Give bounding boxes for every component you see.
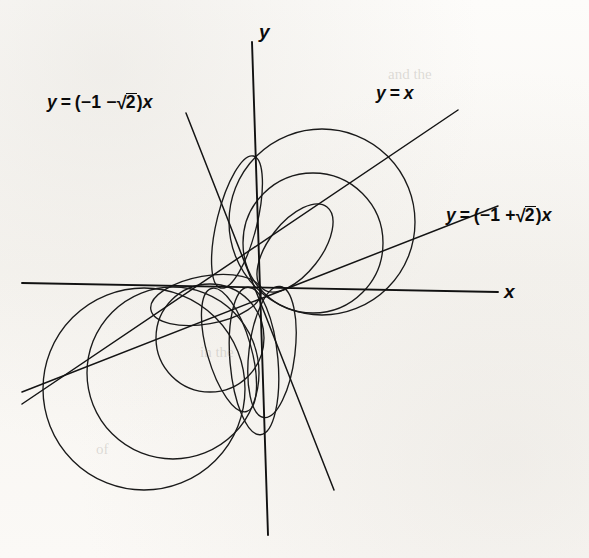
label-line-y-equals-x: y = x (376, 85, 414, 103)
figure-root: and the in the of y x y = (−1 −√2)x y = … (0, 0, 589, 558)
circle-lower-mid (87, 287, 259, 459)
reference-line-1 (22, 110, 458, 404)
label-line-pos-sqrt2: y = (−1 +√2)x (446, 206, 552, 225)
label-pos-lhs: y (446, 205, 456, 225)
radical-icon-2: √ (516, 207, 526, 225)
label-yx-var: x (404, 83, 414, 103)
x-axis-label: x (504, 282, 515, 301)
label-neg-lhs: y (47, 92, 57, 112)
label-neg-eq: = (61, 92, 71, 112)
axes (22, 42, 498, 535)
label-yx-eq: = (390, 83, 400, 103)
label-neg-radicand: 2 (126, 93, 137, 112)
y-axis-label: y (259, 22, 270, 41)
label-line-neg-sqrt2: y = (−1 −√2)x (47, 93, 153, 112)
label-yx-lhs: y (376, 83, 386, 103)
label-pos-radicand: 2 (525, 206, 536, 225)
circle-lower-large (43, 288, 245, 490)
label-neg-open: (−1 − (75, 92, 117, 112)
label-pos-eq: = (460, 205, 470, 225)
lobe-up-left (201, 151, 273, 293)
circle-upper-small (243, 173, 383, 313)
label-pos-var: x (542, 205, 552, 225)
radical-icon: √ (117, 94, 127, 112)
polar-circles-plot (0, 0, 589, 558)
label-pos-open: (−1 + (474, 205, 516, 225)
label-neg-var: x (143, 92, 153, 112)
lobe-down-right (241, 284, 303, 421)
